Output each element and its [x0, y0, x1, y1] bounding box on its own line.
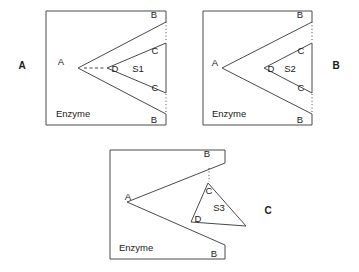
panel-b-enzyme-label: Enzyme [212, 108, 246, 119]
panel-a-vertex-label-c-top: C [152, 45, 159, 56]
panel-b: A B B C C D S2 Enzyme B [203, 9, 340, 125]
figure-root: A B B C C D S1 Enzyme A A B B C C D S2 E… [0, 0, 359, 272]
panel-a-enzyme-label: Enzyme [56, 108, 90, 119]
panel-a-vertex-label-c-bottom: C [152, 82, 159, 93]
panel-b-vertex-label-a: A [212, 57, 219, 68]
panel-c-vertex-label-b-top: B [204, 148, 210, 159]
panel-c-vertex-label-b-bottom: B [211, 248, 217, 259]
panel-c: A B B C D S3 Enzyme C [110, 148, 272, 259]
panel-c-substrate-label: S3 [213, 202, 225, 213]
panel-b-vertex-label-b-top: B [297, 9, 303, 20]
panel-b-substrate-label: S2 [284, 63, 296, 74]
panel-a-vertex-label-a: A [58, 56, 65, 67]
panel-c-vertex-label-c: C [206, 185, 213, 196]
panel-a: A B B C C D S1 Enzyme A [18, 9, 166, 125]
panel-c-vertex-label-a: A [125, 191, 132, 202]
panel-b-vertex-label-b-bottom: B [297, 114, 303, 125]
panel-a-vertex-label-b-bottom: B [151, 114, 157, 125]
panel-a-substrate-label: S1 [132, 63, 144, 74]
panel-a-label: A [18, 60, 25, 71]
panel-b-vertex-label-d: D [268, 63, 275, 74]
panel-b-vertex-label-c-top: C [298, 45, 305, 56]
panel-a-vertex-label-b-top: B [151, 9, 157, 20]
panel-b-label: B [332, 60, 339, 71]
panel-a-vertex-label-d: D [112, 63, 119, 74]
panel-c-enzyme-label: Enzyme [119, 242, 153, 253]
panel-c-vertex-label-d: D [195, 213, 202, 224]
panel-c-label: C [264, 205, 271, 216]
enzyme-substrate-diagram: A B B C C D S1 Enzyme A A B B C C D S2 E… [0, 0, 359, 272]
panel-b-vertex-label-c-bottom: C [298, 82, 305, 93]
